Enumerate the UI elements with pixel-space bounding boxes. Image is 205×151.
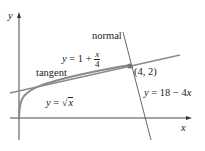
curve-eq-equals: = (53, 97, 59, 108)
y-axis-label: y (8, 11, 13, 22)
tangent-point (127, 63, 132, 68)
curve-eq-x: x (68, 97, 74, 109)
x-axis-label: x (181, 123, 186, 134)
point-label: (4, 2) (134, 67, 157, 78)
tangent-eq-fraction: x 4 (94, 50, 100, 69)
y-axis-arrow-icon (17, 12, 21, 18)
diagram-canvas (0, 0, 205, 151)
tangent-eq-lhs: y (62, 53, 67, 64)
curve-equation-label: y = √x (46, 97, 73, 109)
normal-eq-rest: = 18 − 4 (151, 87, 186, 98)
curve-eq-lhs: y (46, 97, 51, 108)
tangent-equation-label: y = 1 + x 4 (62, 50, 100, 69)
x-axis-arrow-icon (186, 116, 192, 120)
tangent-label: tangent (36, 68, 67, 79)
fraction-denominator: 4 (94, 60, 100, 69)
normal-eq-x: x (187, 87, 192, 98)
normal-equation-label: y = 18 − 4x (144, 88, 191, 99)
normal-eq-lhs: y (144, 87, 149, 98)
normal-label: normal (92, 31, 122, 42)
normal-line (123, 32, 151, 140)
tangent-eq-mid: = 1 + (69, 53, 91, 64)
